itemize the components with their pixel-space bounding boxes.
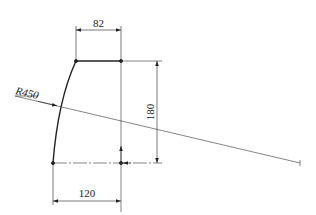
technical-drawing: 82 180 120 R450 xyxy=(0,0,316,215)
radius-label: R450 xyxy=(14,84,41,101)
part-outline xyxy=(52,60,123,165)
dimension-label-180: 180 xyxy=(144,103,156,120)
dimension-82 xyxy=(76,26,121,61)
construction-lines xyxy=(15,61,300,212)
radius-arrow xyxy=(38,101,57,106)
radius-leader-line xyxy=(15,96,300,163)
dimension-label-120: 120 xyxy=(79,187,96,199)
arc-edge-r450 xyxy=(53,61,76,163)
dimension-label-82: 82 xyxy=(93,17,104,29)
